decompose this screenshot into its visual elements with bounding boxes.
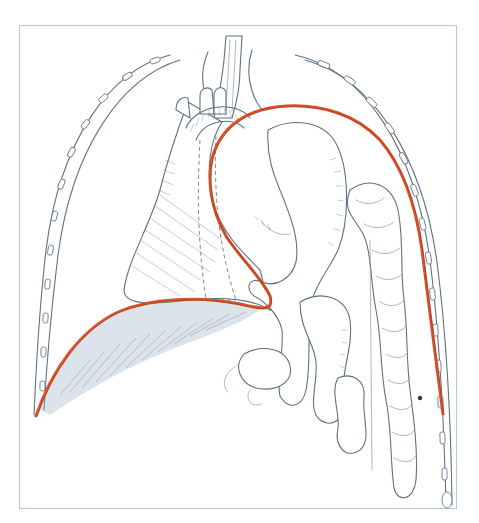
- heart: [124, 88, 270, 310]
- anatomy-illustration: [0, 0, 479, 523]
- shadow-left: [40, 301, 262, 415]
- lesion-dot: [418, 396, 422, 400]
